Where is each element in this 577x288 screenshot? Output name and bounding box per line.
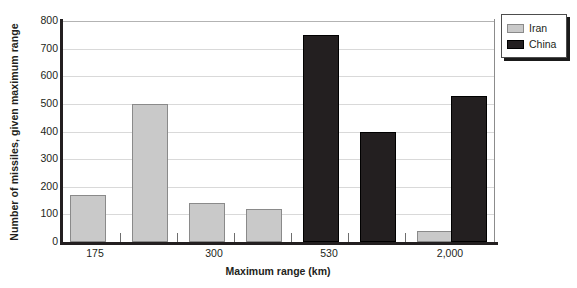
chart-figure: Number of missiles, given maximum range … — [0, 0, 577, 288]
bar-iran-300-b — [246, 209, 282, 242]
y-tick-label-400: 400 — [18, 125, 58, 137]
x-tick-mark-3 — [234, 233, 235, 242]
legend-swatch-iran — [507, 24, 524, 33]
gridline-300 — [62, 159, 494, 160]
y-tick-label-0: 0 — [18, 235, 58, 247]
legend-label-iran: Iran — [529, 22, 547, 34]
gridline-700 — [62, 49, 494, 50]
plot-right-edge — [494, 19, 495, 242]
x-tick-mark-4 — [291, 233, 292, 242]
y-tick-label-600: 600 — [18, 69, 58, 81]
y-tick-label-300: 300 — [18, 152, 58, 164]
y-axis-line — [60, 19, 63, 244]
x-tick-label-175: 175 — [86, 247, 104, 259]
gridline-600 — [62, 76, 494, 77]
legend-item-iran: Iran — [507, 20, 562, 36]
x-tick-mark-5 — [348, 233, 349, 242]
y-tick-label-700: 700 — [18, 42, 58, 54]
x-tick-label-2000: 2,000 — [437, 247, 463, 259]
bar-china-530 — [303, 35, 339, 242]
gridline-400 — [62, 132, 494, 133]
y-tick-label-500: 500 — [18, 97, 58, 109]
gridline-800 — [62, 21, 494, 22]
x-axis-line — [60, 242, 498, 245]
bar-iran-2000 — [417, 231, 453, 242]
bar-iran-175-a — [70, 195, 106, 242]
plot-area: 800 700 600 500 400 300 200 100 0 175 30… — [62, 21, 494, 242]
legend-swatch-china — [507, 40, 524, 49]
y-tick-label-800: 800 — [18, 14, 58, 26]
chart-legend: Iran China — [501, 14, 567, 58]
x-tick-mark-6 — [405, 233, 406, 242]
bar-iran-175-b — [132, 104, 168, 242]
x-tick-mark-1 — [120, 233, 121, 242]
gridline-500 — [62, 104, 494, 105]
x-tick-mark-2 — [177, 233, 178, 242]
bar-china-2000-a — [360, 132, 396, 243]
bar-china-2000-b — [451, 96, 487, 242]
legend-item-china: China — [507, 36, 562, 52]
x-tick-label-530: 530 — [320, 247, 338, 259]
gridline-200 — [62, 187, 494, 188]
y-tick-label-100: 100 — [18, 207, 58, 219]
bar-iran-300-a — [189, 203, 225, 242]
y-tick-label-200: 200 — [18, 180, 58, 192]
x-tick-label-300: 300 — [205, 247, 223, 259]
x-axis-title: Maximum range (km) — [62, 265, 494, 277]
legend-label-china: China — [529, 38, 556, 50]
